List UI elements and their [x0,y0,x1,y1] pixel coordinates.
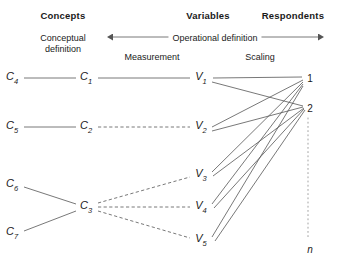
link-V4-R1 [212,84,303,204]
respondent-node-r1: 1 [307,73,313,84]
concept-link-group [24,78,76,231]
link-V1-R1 [213,77,302,78]
node-subscript: 4 [14,77,18,86]
sublabel-measurement: Measurement [124,52,179,63]
node-subscript: 1 [203,77,207,86]
concept-node-c4: C4 [6,70,18,85]
concept-node-c3: C3 [80,199,92,214]
variable-node-v5: V5 [195,232,207,247]
column-header-respondents: Respondents [262,10,324,21]
link-V2-R1 [212,80,303,127]
sublabel-line-1: Conceptual [40,33,86,44]
link-C3-V3 [98,177,190,203]
node-subscript: 5 [203,239,207,248]
respondent-node-r2: 2 [307,103,313,114]
link-C7-C3 [24,211,76,231]
node-base-letter: C [6,119,14,131]
concept-node-c1: C1 [80,70,92,85]
node-subscript: 1 [88,77,92,86]
variable-respondent-link-group [212,77,305,241]
node-base-letter: C [6,70,14,82]
sublabel-operational-definition: Operational definition [168,33,261,44]
link-C3-V5 [98,211,190,238]
node-subscript: 7 [14,232,18,241]
concept-node-c5: C5 [6,119,18,134]
respondent-node-rn: n [307,244,313,255]
node-subscript: 2 [203,126,207,135]
variable-node-v2: V2 [195,119,207,134]
column-header-variables: Variables [186,10,230,21]
node-subscript: 6 [14,184,18,193]
variable-node-v4: V4 [195,199,207,214]
link-V3-R2 [213,108,304,176]
node-subscript: 3 [88,206,92,215]
concept-node-c6: C6 [6,177,18,192]
node-subscript: 5 [14,126,18,135]
node-subscript: 2 [88,126,92,135]
sublabel-conceptual-definition: Conceptualdefinition [40,33,86,55]
variable-node-v3: V3 [195,167,207,182]
node-base-letter: C [6,177,14,189]
link-V5-R1 [212,86,303,237]
link-C6-C3 [24,187,76,204]
concept-node-c7: C7 [6,225,18,240]
link-V5-R2 [215,110,305,241]
diagram-canvas: ConceptsVariablesRespondentsConceptualde… [0,0,342,267]
node-base-letter: C [6,225,14,237]
sublabel-scaling: Scaling [245,52,275,63]
concept-node-c2: C2 [80,119,92,134]
concept-variable-link-group [98,78,190,238]
sublabel-line-2: definition [40,44,86,55]
node-base-letter: C [80,199,88,211]
column-header-concepts: Concepts [41,10,86,21]
node-subscript: 3 [203,174,207,183]
node-subscript: 4 [203,206,207,215]
variable-node-v1: V1 [195,70,207,85]
node-base-letter: C [80,70,88,82]
node-base-letter: C [80,119,88,131]
